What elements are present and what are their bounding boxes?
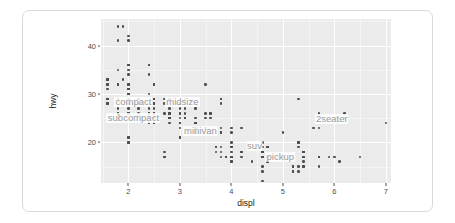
data-point bbox=[179, 112, 182, 115]
y-tick-mark bbox=[98, 45, 101, 46]
data-point bbox=[302, 160, 305, 163]
data-point bbox=[117, 39, 120, 42]
y-tick-label: 30 bbox=[88, 89, 96, 98]
data-point bbox=[220, 146, 223, 149]
data-point bbox=[215, 146, 218, 149]
data-point bbox=[297, 165, 300, 168]
data-point bbox=[168, 122, 171, 125]
data-point bbox=[127, 107, 130, 110]
data-point bbox=[127, 69, 130, 72]
data-point bbox=[148, 107, 151, 110]
data-point bbox=[328, 156, 331, 159]
gridline-minor-x bbox=[103, 19, 104, 183]
data-point bbox=[209, 112, 212, 115]
data-point bbox=[184, 107, 187, 110]
gridline-minor-y bbox=[101, 70, 391, 71]
x-tick-mark bbox=[128, 183, 129, 186]
data-point bbox=[220, 131, 223, 134]
data-point bbox=[297, 141, 300, 144]
data-point bbox=[225, 156, 228, 159]
class-label-midsize: midsize bbox=[165, 97, 199, 107]
data-point bbox=[230, 151, 233, 154]
gridline-minor-y bbox=[101, 167, 391, 168]
data-point bbox=[127, 93, 130, 96]
gridline-minor-x bbox=[206, 19, 207, 183]
data-point bbox=[318, 165, 321, 168]
data-point bbox=[106, 98, 109, 101]
plot-card: compactmidsizesubcompactminivansuvpickup… bbox=[22, 10, 433, 212]
data-point bbox=[184, 112, 187, 115]
data-point bbox=[302, 165, 305, 168]
data-point bbox=[106, 83, 109, 86]
x-tick-label: 5 bbox=[281, 187, 285, 196]
data-point bbox=[106, 102, 109, 105]
data-point bbox=[148, 64, 151, 67]
class-label-subcompact: subcompact bbox=[107, 113, 160, 123]
gridline-minor-x bbox=[154, 19, 155, 183]
x-tick-mark bbox=[231, 183, 232, 186]
data-point bbox=[230, 131, 233, 134]
data-point bbox=[230, 141, 233, 144]
class-label-minivan: minivan bbox=[183, 126, 218, 136]
data-point bbox=[251, 160, 254, 163]
data-point bbox=[297, 170, 300, 173]
data-point bbox=[333, 156, 336, 159]
class-label-pickup: pickup bbox=[266, 152, 295, 162]
y-tick-label: 40 bbox=[88, 41, 96, 50]
data-point bbox=[220, 102, 223, 105]
data-point bbox=[122, 78, 125, 81]
x-axis-ticks: 234567 bbox=[101, 183, 391, 196]
x-tick-mark bbox=[282, 183, 283, 186]
data-point bbox=[194, 107, 197, 110]
plot-panel: compactmidsizesubcompactminivansuvpickup… bbox=[101, 19, 391, 183]
data-point bbox=[179, 107, 182, 110]
data-point bbox=[122, 25, 125, 28]
data-point bbox=[318, 127, 321, 130]
data-point bbox=[215, 151, 218, 154]
data-point bbox=[292, 170, 295, 173]
data-point bbox=[106, 88, 109, 91]
data-point bbox=[117, 25, 120, 28]
data-point bbox=[127, 39, 130, 42]
gridline-major-x bbox=[334, 19, 335, 183]
class-label-compact: compact bbox=[114, 97, 152, 107]
data-point bbox=[302, 156, 305, 159]
data-point bbox=[302, 151, 305, 154]
gridline-major-y bbox=[101, 94, 391, 95]
data-point bbox=[168, 112, 171, 115]
data-point bbox=[220, 151, 223, 154]
class-label-2seater: 2seater bbox=[315, 114, 349, 124]
data-point bbox=[297, 146, 300, 149]
data-point bbox=[261, 170, 264, 173]
gridline-minor-x bbox=[360, 19, 361, 183]
data-point bbox=[266, 146, 269, 149]
data-point bbox=[163, 112, 166, 115]
x-tick-mark bbox=[385, 183, 386, 186]
x-tick-label: 4 bbox=[229, 187, 233, 196]
data-point bbox=[220, 156, 223, 159]
data-point bbox=[204, 112, 207, 115]
data-point bbox=[117, 107, 120, 110]
data-point bbox=[261, 165, 264, 168]
x-tick-label: 3 bbox=[178, 187, 182, 196]
data-point bbox=[127, 35, 130, 38]
data-point bbox=[127, 64, 130, 67]
ggplot-figure: compactmidsizesubcompactminivansuvpickup… bbox=[23, 11, 434, 213]
data-point bbox=[230, 156, 233, 159]
gridline-minor-x bbox=[309, 19, 310, 183]
x-tick-label: 2 bbox=[126, 187, 130, 196]
screenshot-root: compactmidsizesubcompactminivansuvpickup… bbox=[0, 0, 455, 223]
data-point bbox=[163, 156, 166, 159]
x-tick-mark bbox=[334, 183, 335, 186]
data-point bbox=[204, 83, 207, 86]
data-point bbox=[127, 141, 130, 144]
gridline-major-y bbox=[101, 46, 391, 47]
y-tick-mark bbox=[98, 93, 101, 94]
data-point bbox=[148, 73, 151, 76]
data-point bbox=[230, 127, 233, 130]
gridline-major-x bbox=[386, 19, 387, 183]
y-axis-ticks: 403020 bbox=[75, 19, 96, 183]
data-point bbox=[261, 156, 264, 159]
data-point bbox=[261, 180, 264, 183]
data-point bbox=[137, 107, 140, 110]
